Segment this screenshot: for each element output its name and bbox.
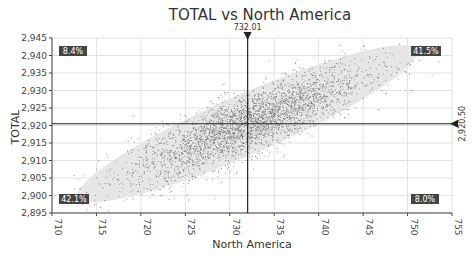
y-tick-label: 2,910 xyxy=(21,156,47,166)
y-tick-label: 2,895 xyxy=(21,208,47,218)
quadrant-percent: 41.5% xyxy=(413,47,439,56)
y-tick-label: 2,905 xyxy=(21,173,47,183)
y-tick-label: 2,940 xyxy=(21,51,47,61)
chart-title: TOTAL vs North America xyxy=(168,6,351,24)
quadrant-percent: 8.0% xyxy=(415,195,436,204)
crosshair-x-marker-icon[interactable] xyxy=(244,32,252,40)
x-tick-label: 730 xyxy=(231,218,241,235)
x-tick-label: 725 xyxy=(186,218,196,235)
x-axis-ticks: 710715720725730735740745750755 xyxy=(52,213,463,236)
x-tick-label: 745 xyxy=(364,218,374,235)
y-tick-label: 2,915 xyxy=(21,138,47,148)
y-tick-label: 2,935 xyxy=(21,68,47,78)
crosshair-y-value: 2,920.50 xyxy=(458,106,467,142)
x-tick-label: 755 xyxy=(453,218,463,235)
y-axis-title: TOTAL xyxy=(9,109,22,146)
x-axis-title: North America xyxy=(212,238,292,251)
crosshair-y-marker-icon[interactable] xyxy=(450,120,458,128)
quadrant-bottom-left: 42.1% xyxy=(59,194,89,204)
x-tick-label: 715 xyxy=(97,218,107,235)
scatter-chart: TOTAL vs North America 71071572072573073… xyxy=(0,0,473,258)
crosshair-x-value: 732.01 xyxy=(234,23,262,32)
quadrant-percent: 42.1% xyxy=(61,195,87,204)
y-tick-label: 2,920 xyxy=(21,121,47,131)
x-tick-label: 740 xyxy=(320,218,330,235)
quadrant-top-left: 8.4% xyxy=(59,46,87,56)
x-tick-label: 750 xyxy=(409,218,419,235)
x-tick-label: 710 xyxy=(53,218,63,235)
y-tick-label: 2,930 xyxy=(21,86,47,96)
y-tick-label: 2,945 xyxy=(21,33,47,43)
quadrant-top-right: 41.5% xyxy=(411,46,441,56)
quadrant-percent: 8.4% xyxy=(63,47,84,56)
x-tick-label: 735 xyxy=(275,218,285,235)
quadrant-bottom-right: 8.0% xyxy=(411,194,439,204)
y-tick-label: 2,900 xyxy=(21,191,47,201)
x-tick-label: 720 xyxy=(142,218,152,235)
y-tick-label: 2,925 xyxy=(21,103,47,113)
y-axis-ticks: 2,8952,9002,9052,9102,9152,9202,9252,930… xyxy=(21,33,52,218)
